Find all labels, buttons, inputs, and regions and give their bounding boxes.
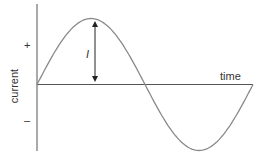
amplitude-label: I — [86, 48, 89, 60]
y-axis-label: current — [8, 69, 20, 103]
positive-label: + — [24, 39, 30, 51]
sine-diagram: I time + – current — [0, 0, 264, 162]
x-axis-label: time — [220, 70, 241, 82]
negative-label: – — [24, 114, 31, 126]
